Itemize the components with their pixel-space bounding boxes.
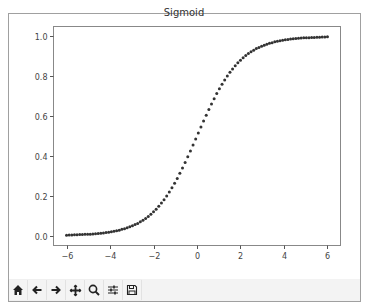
x-tick-label: 4	[282, 252, 287, 261]
pan-button[interactable]	[66, 280, 85, 300]
data-point	[176, 177, 179, 180]
data-point	[173, 182, 176, 185]
y-tick-label: 0.6	[35, 113, 48, 122]
data-point	[89, 233, 92, 236]
data-point	[120, 228, 123, 231]
data-point	[81, 233, 84, 236]
data-point	[115, 229, 118, 232]
data-point	[192, 143, 195, 146]
data-point	[223, 79, 226, 82]
data-point	[178, 172, 181, 175]
data-point	[70, 233, 73, 236]
data-point	[168, 190, 171, 193]
toolbar-message-area	[142, 279, 360, 301]
data-point	[131, 224, 134, 227]
data-point	[181, 167, 184, 170]
data-point	[315, 36, 318, 39]
forward-button[interactable]	[47, 280, 66, 300]
data-point	[110, 230, 113, 233]
data-point	[250, 50, 253, 53]
data-point	[102, 231, 105, 234]
data-point	[218, 87, 221, 90]
y-tick-label: 0.8	[35, 73, 48, 82]
data-point	[126, 226, 129, 229]
x-tick-label: 2	[238, 252, 243, 261]
data-point	[136, 222, 139, 225]
data-point	[149, 213, 152, 216]
axes-frame	[54, 27, 341, 246]
data-point	[234, 64, 237, 67]
data-point	[76, 233, 79, 236]
magnifier-icon	[88, 284, 100, 296]
data-point	[160, 202, 163, 205]
data-point	[210, 102, 213, 105]
x-axis-ticks: −6−4−20246	[62, 246, 330, 261]
navigation-toolbar	[9, 279, 360, 301]
data-point	[139, 220, 142, 223]
data-point	[236, 61, 239, 64]
data-point	[244, 54, 247, 57]
y-tick-label: 0.0	[35, 233, 48, 242]
data-point	[144, 217, 147, 220]
x-tick-label: 6	[325, 252, 330, 261]
data-point	[86, 233, 89, 236]
data-point	[163, 198, 166, 201]
data-point	[65, 234, 68, 237]
data-point	[147, 215, 150, 218]
home-button[interactable]	[9, 280, 28, 300]
data-point	[228, 71, 231, 74]
data-point	[155, 208, 158, 211]
back-button[interactable]	[28, 280, 47, 300]
x-tick-label: −4	[105, 252, 117, 261]
y-tick-label: 0.2	[35, 193, 48, 202]
move-icon	[69, 284, 82, 297]
data-point	[279, 39, 282, 42]
data-point	[257, 46, 260, 49]
data-point	[197, 132, 200, 135]
data-point	[141, 219, 144, 222]
y-tick-label: 0.4	[35, 153, 48, 162]
data-point	[184, 161, 187, 164]
data-point	[263, 44, 266, 47]
data-point	[308, 36, 311, 39]
data-point	[128, 225, 131, 228]
data-point	[152, 210, 155, 213]
data-point	[265, 43, 268, 46]
data-point	[271, 41, 274, 44]
data-point	[157, 205, 160, 208]
data-point	[134, 223, 137, 226]
data-point	[305, 36, 308, 39]
save-button[interactable]	[123, 280, 142, 300]
data-point	[207, 108, 210, 111]
y-axis-ticks: 0.00.20.40.60.81.0	[35, 33, 54, 242]
data-point	[194, 137, 197, 140]
data-point	[83, 233, 86, 236]
data-point	[99, 232, 102, 235]
data-point	[78, 233, 81, 236]
data-point	[289, 38, 292, 41]
data-point	[247, 52, 250, 55]
data-point	[260, 45, 263, 48]
floppy-disk-icon	[126, 284, 138, 296]
data-point	[112, 230, 115, 233]
data-point	[302, 36, 305, 39]
data-point	[286, 38, 289, 41]
data-point	[255, 47, 258, 50]
arrow-left-icon	[31, 284, 43, 296]
data-point	[231, 67, 234, 70]
data-point	[321, 36, 324, 39]
data-point	[105, 231, 108, 234]
data-point	[268, 42, 271, 45]
data-point	[273, 40, 276, 43]
sliders-icon	[107, 284, 119, 296]
plot-area: 0.00.20.40.60.81.0 −6−4−20246	[0, 0, 368, 280]
data-point	[226, 75, 229, 78]
data-point	[292, 37, 295, 40]
configure-subplots-button[interactable]	[104, 280, 123, 300]
data-point	[68, 233, 71, 236]
zoom-button[interactable]	[85, 280, 104, 300]
x-tick-label: −2	[149, 252, 161, 261]
data-point	[221, 83, 224, 86]
data-point	[123, 227, 126, 230]
data-point	[91, 232, 94, 235]
